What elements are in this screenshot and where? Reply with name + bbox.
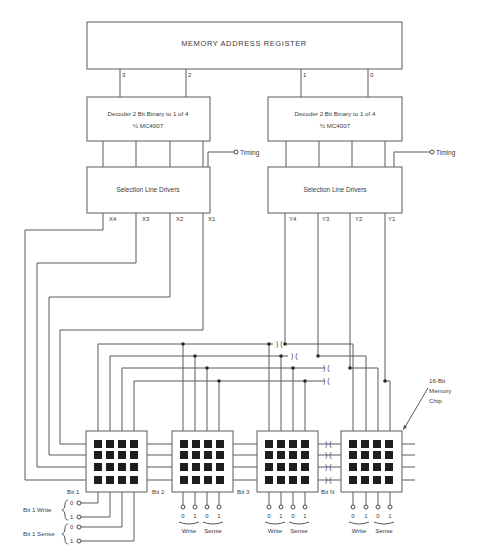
bit1-write-label: Bit 1 Write (23, 506, 52, 513)
driver-y3: Y3 (322, 216, 330, 222)
svg-text:1: 1 (388, 513, 392, 519)
chip-label-bit-2: Bit 2 (152, 488, 165, 495)
svg-text:16-Bit: 16-Bit (429, 377, 445, 384)
chip-label-bit-n: Bit N (321, 488, 334, 495)
driver-y4: Y4 (289, 216, 297, 222)
chip-callout: 16-Bit Memory Chip (403, 377, 452, 430)
svg-text:1: 1 (303, 513, 307, 519)
svg-text:) (: ) ( (325, 440, 332, 448)
timing-label-right: Timing (436, 149, 456, 157)
driver-y1: Y1 (388, 216, 396, 222)
decoder-left-line2: ½ MC4007 (133, 122, 164, 129)
register-output-1: 1 (303, 72, 307, 78)
chip-2-terminals: 0 1 0 1 Write Sense (179, 492, 223, 534)
decoder-right-line1: Decoder 2 Bit Binary to 1 of 4 (295, 110, 376, 117)
driver-y2: Y2 (355, 216, 363, 222)
svg-text:1: 1 (217, 513, 221, 519)
svg-text:1: 1 (70, 514, 74, 520)
driver-x1: X1 (208, 216, 216, 222)
svg-text:1: 1 (70, 538, 74, 544)
svg-text:0: 0 (205, 513, 209, 519)
driver-x3: X3 (142, 216, 150, 222)
svg-text:Write: Write (352, 527, 367, 534)
svg-text:1: 1 (364, 513, 368, 519)
chip-bit-2: Bit 2 0 1 0 1 Write Sense (152, 431, 233, 534)
svg-text:) (: ) ( (325, 476, 332, 484)
svg-text:0: 0 (291, 513, 295, 519)
svg-text:) (: ) ( (325, 451, 332, 459)
decoder-left-line1: Decoder 2 Bit Binary to 1 of 4 (108, 110, 189, 117)
svg-text:Write: Write (268, 527, 283, 534)
svg-text:0: 0 (376, 513, 380, 519)
svg-text:0: 0 (181, 513, 185, 519)
svg-text:) (: ) ( (323, 377, 330, 385)
decoder-left: Decoder 2 Bit Binary to 1 of 4 ½ MC4007 … (87, 97, 260, 167)
chip-n-terminals: 0 1 0 1 Write Sense (349, 492, 394, 534)
svg-text:Memory: Memory (429, 387, 452, 394)
svg-text:0: 0 (70, 500, 74, 506)
selection-drivers-x: Selection Line Drivers X4 X3 X2 X1 (87, 167, 216, 330)
register-output-0: 0 (370, 72, 374, 78)
chip-bit-n: Bit N 0 1 0 1 Write Sense (321, 431, 402, 534)
svg-text:Sense: Sense (375, 527, 393, 534)
memory-address-register: MEMORY ADDRESS REGISTER 3 2 1 0 (87, 22, 402, 97)
driver-x2: X2 (176, 216, 184, 222)
chip-bit-1: Bit 1 (67, 431, 147, 495)
svg-text:1: 1 (279, 513, 283, 519)
decoder-right: Decoder 2 Bit Binary to 1 of 4 ½ MC4007 … (268, 97, 456, 167)
chip-3-terminals: 0 1 0 1 Write Sense (265, 492, 309, 534)
chip-label-bit-1: Bit 1 (67, 488, 80, 495)
svg-text:) (: ) ( (291, 352, 298, 360)
register-output-3: 3 (122, 72, 126, 78)
drivers-y-label: Selection Line Drivers (303, 186, 367, 193)
svg-text:Write: Write (182, 527, 197, 534)
svg-text:) (: ) ( (325, 463, 332, 471)
drivers-x-label: Selection Line Drivers (116, 186, 180, 193)
timing-label-left: Timing (240, 149, 260, 157)
svg-text:0: 0 (70, 524, 74, 530)
driver-x4: X4 (109, 216, 117, 222)
svg-text:Chip: Chip (429, 397, 442, 404)
chip-bit-3: Bit 3 0 1 0 1 Write Sense (237, 431, 318, 534)
register-label: MEMORY ADDRESS REGISTER (181, 39, 307, 48)
chip-label-bit-3: Bit 3 (237, 488, 250, 495)
selection-drivers-y: Selection Line Drivers Y4 Y3 Y2 Y1 (268, 167, 402, 381)
svg-text:) (: ) ( (323, 364, 330, 372)
svg-text:Sense: Sense (290, 527, 308, 534)
bit1-write-sense: 0 1 0 1 Bit 1 Write Bit 1 Sense (23, 492, 134, 544)
decoder-right-line2: ½ MC4007 (320, 122, 351, 129)
svg-text:0: 0 (351, 513, 355, 519)
memory-diagram: MEMORY ADDRESS REGISTER 3 2 1 0 Decoder … (0, 0, 486, 560)
register-output-2: 2 (188, 72, 192, 78)
svg-text:0: 0 (267, 513, 271, 519)
svg-text:Sense: Sense (204, 527, 222, 534)
svg-text:1: 1 (193, 513, 197, 519)
bit1-sense-label: Bit 1 Sense (23, 530, 55, 537)
svg-text:) (: ) ( (276, 340, 283, 348)
